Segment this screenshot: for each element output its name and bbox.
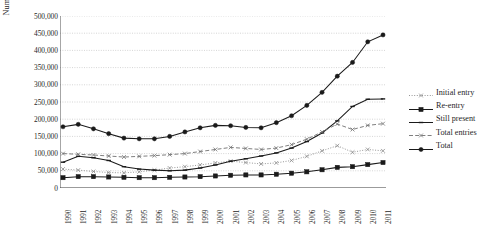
re-entry-key	[408, 101, 434, 112]
x-axis-tick: 1992	[96, 210, 103, 224]
legend-item[interactable]: Still present	[408, 113, 484, 126]
y-axis-tick: 200,000	[12, 116, 58, 123]
x-axis-tick: 2004	[279, 210, 286, 224]
still-present-key	[408, 114, 434, 125]
legend-label: Total entries	[434, 129, 477, 137]
y-axis-tick: 500,000	[12, 13, 58, 20]
x-axis-tick: 2011	[386, 210, 393, 224]
total-key	[408, 141, 434, 152]
x-axis-tick: 1990	[66, 210, 73, 224]
x-axis-tick: 1998	[188, 210, 195, 224]
x-axis-tick: 2007	[325, 210, 332, 224]
plot-area	[60, 16, 386, 188]
y-axis-tick: 250,000	[12, 99, 58, 106]
y-axis-tick: 50,000	[12, 167, 58, 174]
y-axis-tick: 350,000	[12, 64, 58, 71]
x-axis-tick: 1996	[157, 210, 164, 224]
y-axis-tick: 300,000	[12, 81, 58, 88]
x-axis-tick: 1993	[112, 210, 119, 224]
legend-label: Re-entry	[434, 102, 465, 110]
x-axis-tick: 1995	[142, 210, 149, 224]
x-axis-tick: 1991	[81, 210, 88, 224]
y-axis-tick: 400,000	[12, 47, 58, 54]
gridlines	[60, 16, 386, 188]
x-axis-tick: 2009	[356, 210, 363, 224]
x-axis-tick: 1997	[173, 210, 180, 224]
y-axis-tick: 100,000	[12, 150, 58, 157]
chart-figure: Number of TFW's 500,000450,000400,000350…	[0, 0, 484, 231]
x-axis-tick: 2008	[340, 210, 347, 224]
x-axis-tick: 2000	[218, 210, 225, 224]
legend-item[interactable]: Total entries	[408, 126, 484, 139]
y-axis-tick: 450,000	[12, 30, 58, 37]
legend-label: Initial entry	[434, 89, 474, 97]
x-axis-tick: 2001	[234, 210, 241, 224]
y-axis-tick-labels: 500,000450,000400,000350,000300,000250,0…	[10, 0, 58, 231]
x-axis-tick-labels: 1990199119921993199419951996199719981999…	[60, 190, 386, 228]
x-axis-tick: 2005	[295, 210, 302, 224]
x-axis-tick: 2006	[310, 210, 317, 224]
x-axis-tick: 1994	[127, 210, 134, 224]
total-entries-key	[408, 127, 434, 138]
chart-canvas	[60, 16, 386, 188]
legend-item[interactable]: Initial entry	[408, 86, 484, 99]
y-axis-tick: 150,000	[12, 133, 58, 140]
chart-legend: Initial entryRe-entryStill presentTotal …	[408, 86, 484, 153]
legend-label: Still present	[434, 115, 475, 123]
legend-item[interactable]: Re-entry	[408, 99, 484, 112]
x-axis-tick: 1999	[203, 210, 210, 224]
x-axis-tick: 2002	[249, 210, 256, 224]
initial-entry-key	[408, 87, 434, 98]
legend-item[interactable]: Total	[408, 140, 484, 153]
legend-label: Total	[434, 142, 453, 150]
x-axis-tick: 2003	[264, 210, 271, 224]
y-axis-tick: 0	[12, 185, 58, 192]
x-axis-tick: 2010	[371, 210, 378, 224]
series-initial-entry	[61, 144, 385, 175]
